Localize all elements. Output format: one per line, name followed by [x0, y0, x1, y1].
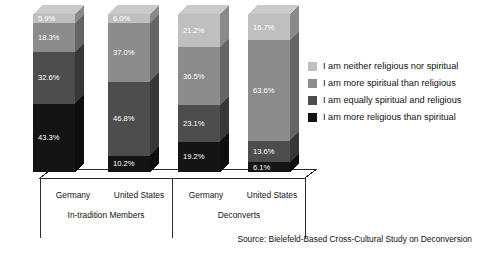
- legend-swatch-more-spiritual: [308, 79, 317, 88]
- category-label-us-deconverts: United States: [247, 190, 297, 200]
- bar-segment-side: [75, 95, 84, 172]
- chart-canvas: 5.9%18.3%32.6%43.3%6.0%37.0%46.8%10.2%21…: [0, 0, 478, 255]
- bar-segment-value: 21.2%: [183, 26, 205, 35]
- legend-swatch-equally: [308, 96, 317, 105]
- legend-label-neither: I am neither religious nor spiritual: [323, 61, 458, 71]
- legend-swatch-neither: [308, 62, 317, 71]
- bar-segment-side: [290, 31, 299, 140]
- bar-segment-side: [220, 38, 229, 105]
- bar-segment-value: 36.5%: [183, 72, 205, 81]
- bar-segment-value: 16.7%: [253, 23, 275, 32]
- bar-top-face: [33, 5, 84, 14]
- legend-label-equally: I am equally spiritual and religious: [323, 95, 462, 105]
- bar-segment-value: 32.6%: [38, 73, 60, 82]
- bar-column: 5.9%18.3%32.6%43.3%: [33, 5, 84, 172]
- bar-segment-value: 13.6%: [253, 147, 275, 156]
- group-label-in-tradition-members: In-tradition Members: [68, 210, 145, 220]
- bar-column: 6.0%37.0%46.8%10.2%: [108, 5, 159, 172]
- source-note: Source: Bielefeld-Based Cross-Cultural S…: [237, 234, 472, 244]
- bar-segment-value: 46.8%: [113, 114, 135, 123]
- bar-segment-side: [150, 14, 159, 81]
- bar-segment-side: [150, 73, 159, 156]
- category-label-us-members: United States: [114, 190, 164, 200]
- category-labels: Germany United States Germany United Sta…: [56, 190, 297, 200]
- bar-segment-value: 23.1%: [183, 119, 205, 128]
- bars-layer: 5.9%18.3%32.6%43.3%6.0%37.0%46.8%10.2%21…: [33, 5, 299, 172]
- chart-legend: I am neither religious nor spiritual I a…: [308, 61, 462, 122]
- bar-segment-value: 18.3%: [38, 33, 60, 42]
- bar-segment-value: 63.6%: [253, 86, 275, 95]
- legend-swatch-more-religious: [308, 113, 317, 122]
- bar-segment-value: 5.9%: [38, 14, 56, 23]
- bar-column: 16.7%63.6%13.6%6.1%: [248, 5, 299, 172]
- bar-segment-value: 37.0%: [113, 48, 135, 57]
- group-labels: In-tradition Members Deconverts: [68, 210, 261, 220]
- bar-segment-side: [75, 43, 84, 104]
- bar-segment-value: 6.1%: [253, 163, 271, 172]
- category-table-frame: [40, 178, 305, 238]
- bar-segment-value: 19.2%: [183, 152, 205, 161]
- group-label-deconverts: Deconverts: [218, 210, 260, 220]
- bar-segment-value: 6.0%: [113, 14, 131, 23]
- category-label-germany-members: Germany: [56, 190, 91, 200]
- legend-label-more-spiritual: I am more spiritual than religious: [323, 78, 456, 88]
- legend-label-more-religious: I am more religious than spiritual: [323, 112, 456, 122]
- category-label-germany-deconverts: Germany: [189, 190, 224, 200]
- bar-column: 21.2%36.5%23.1%19.2%: [178, 5, 229, 172]
- bar-segment-value: 10.2%: [113, 159, 135, 168]
- bar-segment-value: 43.3%: [38, 133, 60, 142]
- stacked-bar-chart: 5.9%18.3%32.6%43.3%6.0%37.0%46.8%10.2%21…: [0, 0, 478, 255]
